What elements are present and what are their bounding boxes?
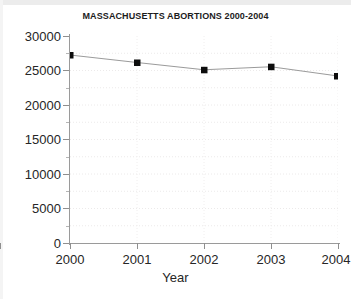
y-axis-tick-label: 25000	[3, 64, 61, 77]
x-axis-tick-2004	[338, 243, 339, 249]
x-axis-tick-label-2000: 2000	[43, 252, 97, 267]
y-axis-tick-label: 20000	[3, 99, 61, 112]
x-axis-tick-label-2004: 2004	[309, 252, 351, 267]
y-axis-tick-label: 5000	[3, 202, 61, 215]
y-axis-tick-label: 0	[3, 237, 61, 250]
y-axis-label-wrap-10000: 10000	[0, 168, 61, 181]
chart-container: MASSACHUSETTS ABORTIONS 2000-2004 30000 …	[0, 0, 351, 299]
x-axis-tick-2003	[271, 243, 272, 249]
y-axis-label-wrap-30000: 30000	[0, 30, 61, 43]
chart-title: MASSACHUSETTS ABORTIONS 2000-2004	[0, 11, 351, 21]
x-axis-tick-label-2001: 2001	[110, 252, 164, 267]
scan-edge-left	[0, 0, 3, 299]
scan-edge-top	[0, 0, 351, 5]
gridlines-horizontal	[70, 53, 338, 226]
x-axis-tick-2001	[137, 243, 138, 249]
y-axis-label-wrap-5000: 5000	[0, 202, 61, 215]
x-axis-title: Year	[0, 270, 351, 285]
plot-area	[70, 36, 338, 243]
data-point-2002	[201, 67, 208, 74]
y-axis-label-wrap-0: 0	[0, 237, 61, 250]
data-point-2004	[334, 73, 338, 80]
data-point-2003	[268, 64, 275, 70]
y-axis-tick-label: 15000	[3, 133, 61, 146]
x-axis-tick-2002	[204, 243, 205, 249]
y-axis-label-wrap-25000: 25000	[0, 64, 61, 77]
y-axis-label-wrap-20000: 20000	[0, 99, 61, 112]
x-axis-tick-label-2002: 2002	[177, 252, 231, 267]
x-axis-tick-2000	[70, 243, 71, 249]
y-axis-tick-label: 10000	[3, 168, 61, 181]
data-point-2000	[70, 52, 74, 59]
data-point-2001	[134, 60, 141, 67]
y-axis-label-wrap-15000: 15000	[0, 133, 61, 146]
y-axis-tick-label: 30000	[3, 30, 61, 43]
x-axis-tick-label-2003: 2003	[244, 252, 298, 267]
plot-svg	[70, 36, 338, 243]
